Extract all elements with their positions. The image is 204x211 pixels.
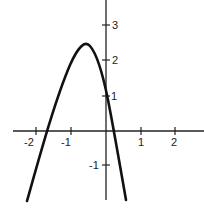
y-tick-label-2: 2 (112, 55, 118, 66)
x-tick-label-neg1: -1 (61, 137, 71, 148)
x-tick-label-1: 1 (138, 137, 144, 148)
chart-figure: -2 -1 1 2 3 2 1 -1 (0, 0, 204, 211)
x-tick-label-neg2: -2 (24, 137, 34, 148)
y-tick-label-1: 1 (111, 91, 117, 102)
x-tick-label-2: 2 (171, 137, 177, 148)
y-tick-label-neg1: -1 (89, 160, 99, 171)
parabola-curve (27, 44, 126, 201)
chart-plot (0, 0, 204, 211)
y-tick-label-3: 3 (112, 20, 118, 31)
